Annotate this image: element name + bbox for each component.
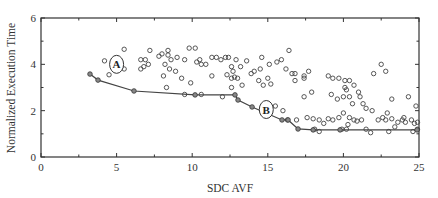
front-point	[415, 128, 420, 133]
y-tick-label: 4	[31, 58, 37, 70]
svg-text:B: B	[263, 104, 271, 116]
annotation-b: B	[259, 101, 273, 119]
front-point	[296, 127, 301, 132]
front-point	[233, 93, 238, 98]
x-tick-label: 10	[187, 161, 199, 173]
x-axis-title: SDC AVF	[207, 182, 253, 194]
x-tick-label: 0	[38, 161, 44, 173]
front-point	[250, 105, 255, 110]
x-tick-label: 15	[262, 161, 274, 173]
y-tick-label: 0	[31, 151, 37, 163]
front-point	[132, 89, 137, 94]
chart: 05101520250246 AB SDC AVF Normalized Exe…	[0, 0, 438, 198]
front-point	[338, 128, 343, 133]
annotation-a: A	[110, 55, 124, 73]
svg-text:A: A	[113, 58, 121, 70]
y-tick-label: 2	[31, 105, 37, 117]
x-tick-label: 20	[338, 161, 350, 173]
front-point	[96, 78, 101, 83]
front-point	[286, 118, 291, 123]
front-point	[311, 128, 316, 133]
front-point	[236, 98, 241, 103]
front-point	[88, 72, 93, 77]
y-tick-label: 6	[31, 12, 37, 24]
front-point	[280, 118, 285, 123]
x-tick-label: 25	[414, 161, 426, 173]
front-point	[193, 93, 198, 98]
y-axis-title: Normalized Execution Time	[5, 23, 17, 153]
plot-frame	[41, 18, 419, 157]
x-tick-label: 5	[114, 161, 120, 173]
